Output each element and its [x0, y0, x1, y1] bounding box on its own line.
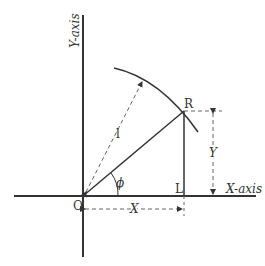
angle-label: ϕ: [116, 176, 124, 190]
point-L-label: L: [175, 182, 183, 196]
origin-label: O: [73, 199, 83, 213]
y-dim-label: Y: [209, 146, 218, 160]
y-axis-label: Y-axis: [68, 13, 82, 48]
x-axis-label: X-axis: [225, 182, 262, 196]
point-R-label: R: [184, 97, 194, 111]
line-OR: [83, 111, 184, 196]
radius-dimension: [86, 82, 142, 192]
radius-label: l: [116, 127, 120, 141]
x-dim-label: X: [129, 202, 139, 216]
polar-coordinates-diagram: Y-axis X-axis O R L l ϕ X Y: [0, 0, 265, 266]
